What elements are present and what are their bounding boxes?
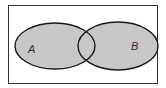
set-a-label: A — [27, 43, 35, 55]
set-b-label: B — [131, 40, 138, 52]
venn-diagram: A B — [0, 0, 166, 88]
